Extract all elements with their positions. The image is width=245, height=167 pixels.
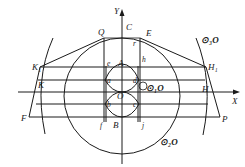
label-k1: K₁ [31,62,41,72]
label-j: j [141,121,144,130]
label-e-upper: E [145,28,152,38]
label-d: d [133,76,137,85]
label-p: P [221,114,228,124]
label-circle-o1: ⊙₁O [146,83,164,93]
label-k: K [37,80,45,90]
label-a-upper: A [117,58,124,68]
label-a-lower: a [107,76,111,85]
tangent-q-k1 [40,38,104,67]
y-axis-arrow-icon [120,9,125,16]
labels: Y C Q E r e A h K₁ H₁ K H a d ⊙₁O O b c … [20,6,238,147]
label-h: h [142,55,146,64]
label-h-upper: H [201,84,209,94]
x-axis-arrow-icon [233,90,240,95]
label-b-upper: B [113,120,119,130]
label-circle-o3: ⊙₃O [201,35,219,45]
label-circle-o2: ⊙₂O [160,137,178,147]
label-h1: H₁ [207,62,218,72]
geometry-diagram: Y C Q E r e A h K₁ H₁ K H a d ⊙₁O O b c … [0,0,245,167]
label-o: O [117,91,124,101]
label-f-upper: F [20,113,27,123]
label-y: Y [114,6,120,16]
label-q: Q [98,27,105,37]
tangent-e-h1 [140,38,206,67]
label-r: r [133,39,136,48]
label-f-lower: f [100,121,103,130]
label-x: X [231,96,238,106]
label-c: C [126,22,133,32]
label-b: b [107,100,111,109]
